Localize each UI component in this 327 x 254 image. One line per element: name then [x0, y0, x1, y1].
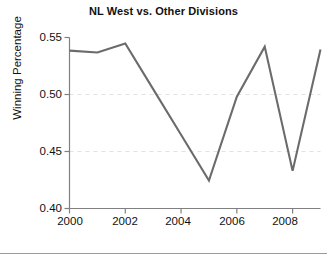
plot-area — [0, 0, 327, 254]
data-series-line — [70, 44, 321, 181]
tick-marks — [65, 38, 293, 214]
chart-figure: NL West vs. Other Divisions Winning Perc… — [0, 0, 327, 254]
